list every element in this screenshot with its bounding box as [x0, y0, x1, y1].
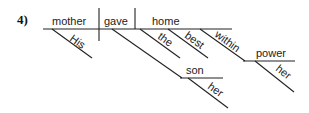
subject-word: mother — [52, 15, 87, 27]
modifier-best: best — [183, 29, 207, 51]
problem-number: 4) — [17, 12, 28, 27]
prepositional-object-word: power — [256, 47, 286, 59]
sentence-diagram: 4) mother gave home His son her the best… — [0, 0, 309, 113]
direct-object-word: home — [152, 15, 180, 27]
modifier-her-son: her — [206, 80, 226, 99]
verb-word: gave — [104, 15, 128, 27]
indirect-object-word: son — [186, 64, 204, 76]
modifier-his: His — [68, 32, 88, 51]
